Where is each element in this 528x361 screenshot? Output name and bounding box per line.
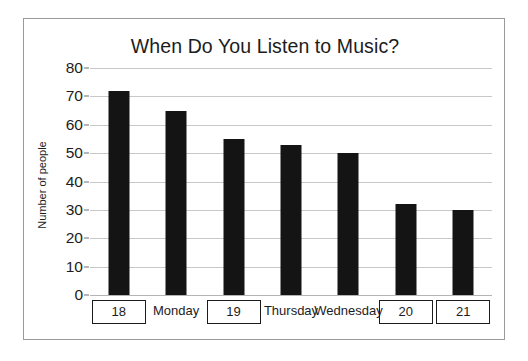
- y-tick-mark-30: [84, 209, 89, 210]
- plot-area: 80706050403020100: [90, 68, 492, 295]
- chart-figure: When Do You Listen to Music? Number of p…: [23, 18, 505, 340]
- bar[interactable]: [453, 210, 474, 295]
- y-tick-label-70: 70: [66, 87, 83, 105]
- gridline-70: [90, 96, 492, 97]
- y-tick-label-60: 60: [66, 116, 83, 134]
- bar[interactable]: [223, 139, 244, 295]
- x-axis-label: 21: [436, 300, 490, 324]
- bar[interactable]: [166, 111, 187, 295]
- y-tick-mark-70: [84, 96, 89, 97]
- y-tick-label-50: 50: [66, 144, 83, 162]
- y-tick-mark-60: [84, 124, 89, 125]
- bar[interactable]: [338, 153, 359, 295]
- y-tick-label-80: 80: [66, 59, 83, 77]
- gridline-60: [90, 125, 492, 126]
- y-tick-mark-80: [84, 68, 89, 69]
- chart-title: When Do You Listen to Music?: [24, 35, 506, 58]
- gridline-0: [90, 295, 492, 296]
- x-axis-label: 18: [92, 300, 146, 324]
- x-axis-label: 19: [207, 300, 261, 324]
- y-tick-label-30: 30: [66, 201, 83, 219]
- y-tick-mark-50: [84, 153, 89, 154]
- y-tick-mark-20: [84, 238, 89, 239]
- y-tick-label-10: 10: [66, 258, 83, 276]
- y-tick-mark-0: [84, 295, 89, 296]
- y-tick-label-40: 40: [66, 173, 83, 191]
- gridline-80: [90, 68, 492, 69]
- x-axis-label: Monday: [153, 300, 199, 322]
- bar[interactable]: [281, 145, 302, 295]
- x-axis-label: 20: [379, 300, 433, 324]
- bar[interactable]: [395, 204, 416, 295]
- x-axis-labels: 18Monday19ThursdayWednesday2021: [90, 300, 492, 332]
- y-tick-mark-40: [84, 181, 89, 182]
- y-tick-label-20: 20: [66, 229, 83, 247]
- x-axis-label: Wednesday: [314, 300, 382, 322]
- bar[interactable]: [108, 91, 129, 295]
- y-tick-mark-10: [84, 266, 89, 267]
- y-axis-title: Number of people: [36, 120, 48, 250]
- y-tick-label-0: 0: [74, 286, 83, 304]
- x-axis-label: Thursday: [264, 300, 318, 322]
